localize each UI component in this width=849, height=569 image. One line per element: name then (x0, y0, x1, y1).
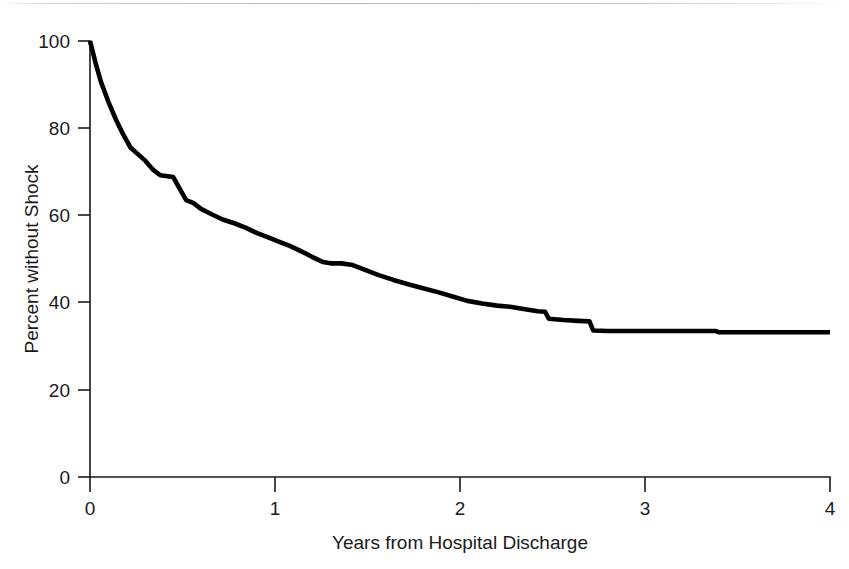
y-tick-label-60: 60 (49, 205, 70, 226)
x-tick-label-3: 3 (640, 498, 651, 519)
x-axis-title: Years from Hospital Discharge (332, 532, 588, 553)
y-tick-label-80: 80 (49, 118, 70, 139)
y-tick-label-0: 0 (59, 467, 70, 488)
y-tick-label-40: 40 (49, 292, 70, 313)
scan-artifact-line (0, 3, 849, 4)
y-axis-title: Percent without Shock (21, 164, 42, 354)
survival-chart: 100 80 60 40 20 0 0 1 2 3 4 Percent with… (0, 0, 849, 569)
x-axis-ticks (90, 477, 830, 492)
y-tick-label-20: 20 (49, 380, 70, 401)
figure-container: 100 80 60 40 20 0 0 1 2 3 4 Percent with… (0, 0, 849, 569)
x-tick-label-2: 2 (455, 498, 466, 519)
y-axis-ticks (78, 41, 90, 477)
y-tick-label-100: 100 (38, 31, 70, 52)
x-tick-label-1: 1 (270, 498, 281, 519)
x-tick-label-0: 0 (85, 498, 96, 519)
survival-curve-line (90, 41, 830, 332)
x-tick-label-4: 4 (825, 498, 836, 519)
